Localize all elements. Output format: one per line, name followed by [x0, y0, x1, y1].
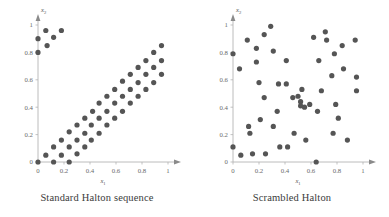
data-point: [112, 100, 117, 105]
data-point: [246, 124, 251, 129]
data-point: [82, 131, 87, 136]
data-point: [285, 144, 290, 149]
y-tick-label: 0.4: [25, 104, 34, 111]
data-point: [112, 116, 117, 121]
scatter-plot-scrambled-halton: 00.20.40.60.8100.20.40.60.81x2x1: [195, 0, 389, 190]
data-point: [319, 88, 324, 93]
x-tick-label: 0.8: [138, 167, 147, 174]
data-point: [245, 37, 250, 42]
y-tick-label: 0.4: [220, 104, 229, 111]
x-tick-label: 0.4: [86, 167, 95, 174]
data-point: [237, 66, 242, 71]
x-tick-label: 1: [361, 167, 364, 174]
data-point: [247, 131, 252, 136]
data-point: [254, 59, 259, 64]
x-tick-label: 0.6: [307, 167, 316, 174]
x-tick-label: 0.6: [112, 167, 121, 174]
data-point: [329, 73, 334, 78]
data-point: [104, 122, 109, 127]
data-point: [35, 36, 40, 41]
data-point: [159, 72, 164, 77]
caption-scrambled-halton: Scrambled Halton: [195, 192, 389, 203]
data-point: [35, 159, 40, 164]
data-point: [143, 72, 148, 77]
data-point: [59, 153, 64, 158]
data-point: [277, 144, 282, 149]
data-point: [59, 28, 64, 33]
data-point: [276, 81, 281, 86]
data-point: [143, 58, 148, 63]
data-point: [151, 50, 156, 55]
axes: [36, 14, 181, 164]
data-point: [316, 58, 321, 63]
y-tick-label: 0.6: [220, 76, 229, 83]
y-axis-arrow-icon: [231, 14, 236, 21]
data-point: [67, 144, 72, 149]
data-point: [89, 122, 94, 127]
data-point: [159, 58, 164, 63]
data-point: [332, 51, 337, 56]
data-point: [230, 51, 235, 56]
data-point: [314, 159, 319, 164]
y-tick-label: 1: [30, 21, 33, 28]
x-axis-label: x1: [99, 177, 106, 186]
data-point: [104, 94, 109, 99]
plot-area-scrambled-halton: 00.20.40.60.8100.20.40.60.81x2x1: [195, 0, 389, 190]
data-point: [136, 94, 141, 99]
x-tick-label: 0.2: [255, 167, 264, 174]
data-point: [82, 144, 87, 149]
data-point: [97, 100, 102, 105]
x-tick-label: 0: [36, 167, 40, 174]
data-point: [354, 88, 359, 93]
data-point: [323, 29, 328, 34]
data-point: [262, 95, 267, 100]
data-point: [315, 109, 320, 114]
y-tick-label: 0.2: [25, 131, 34, 138]
x-tick-label: 0.8: [333, 167, 342, 174]
data-point: [128, 87, 133, 92]
x-tick-label: 0.2: [60, 167, 69, 174]
y-tick-label: 0.8: [25, 49, 34, 56]
data-point: [295, 94, 300, 99]
x-axis-arrow-icon: [174, 160, 181, 165]
data-point: [354, 74, 359, 79]
data-point: [256, 80, 261, 85]
data-point: [51, 35, 56, 40]
caption-standard-halton: Standard Halton sequence: [0, 192, 194, 203]
data-point: [143, 87, 148, 92]
data-point: [59, 137, 64, 142]
data-point: [290, 95, 295, 100]
data-point: [97, 116, 102, 121]
data-point: [271, 48, 276, 53]
data-point: [67, 159, 72, 164]
y-axis-arrow-icon: [36, 14, 41, 21]
data-point: [263, 151, 268, 156]
data-point: [268, 24, 273, 29]
halton-sequence-figure: 00.20.40.60.8100.20.40.60.81x2x1 Standar…: [0, 0, 389, 217]
data-point: [128, 100, 133, 105]
data-point: [151, 65, 156, 70]
data-point: [74, 151, 79, 156]
data-point: [311, 35, 316, 40]
data-point: [35, 50, 40, 55]
data-point: [275, 109, 280, 114]
data-point: [299, 87, 304, 92]
y-tick-label: 0: [225, 158, 229, 165]
data-point: [340, 43, 345, 48]
y-tick-label: 0.2: [220, 131, 229, 138]
data-point: [271, 124, 276, 129]
data-point: [97, 131, 102, 136]
data-point: [128, 72, 133, 77]
data-point: [90, 109, 95, 114]
data-point: [51, 159, 56, 164]
data-point: [238, 153, 243, 158]
data-point: [353, 37, 358, 42]
x-tick-label: 1: [166, 167, 169, 174]
data-point: [336, 116, 341, 121]
data-point: [159, 43, 164, 48]
data-point: [89, 137, 94, 142]
data-point: [104, 109, 109, 114]
data-point: [43, 153, 48, 158]
data-point: [74, 122, 79, 127]
data-point: [345, 137, 350, 142]
